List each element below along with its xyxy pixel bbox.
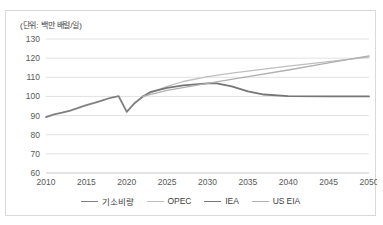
legend-item[interactable]: OPEC	[147, 196, 192, 206]
gridlines-group	[46, 39, 369, 173]
series-line-IEA	[143, 83, 369, 96]
series-line-기소비량	[46, 96, 143, 117]
legend-line-icon	[204, 201, 221, 202]
legend-item[interactable]: 기소비량	[81, 195, 134, 207]
y-axis-tick: 120	[26, 53, 40, 63]
plot-area: 60708090100110120130 2010201520202025203…	[6, 11, 377, 217]
legend-item-label: OPEC	[168, 196, 192, 206]
legend-item-label: IEA	[225, 196, 238, 206]
x-axis-tick: 2020	[117, 177, 136, 187]
y-axis-tick: 80	[31, 130, 41, 140]
x-axis-tick: 2050	[360, 177, 377, 187]
x-axis-tick: 2035	[238, 177, 257, 187]
data-series-group	[46, 56, 369, 117]
y-axis-tick: 130	[26, 34, 40, 44]
legend-line-icon	[81, 201, 98, 202]
legend-line-icon	[252, 201, 269, 202]
series-line-OPEC	[143, 57, 369, 96]
y-axis-tick: 110	[26, 72, 40, 82]
y-axis-tick: 100	[26, 91, 40, 101]
x-axis-tick: 2040	[279, 177, 298, 187]
legend-item-label: 기소비량	[102, 195, 134, 207]
line-chart-svg: 60708090100110120130 2010201520202025203…	[6, 11, 377, 217]
y-axis-tick: 90	[31, 111, 41, 121]
x-axis-tick: 2045	[319, 177, 338, 187]
x-axis-tick: 2030	[198, 177, 217, 187]
legend-item-label: US EIA	[273, 196, 300, 206]
x-axis-tick: 2010	[37, 177, 56, 187]
legend-item[interactable]: US EIA	[252, 196, 300, 206]
legend-line-icon	[147, 201, 164, 202]
chart-legend: 기소비량OPECIEAUS EIA	[6, 195, 375, 207]
chart-frame: (단위: 백만 배럴/일) 60708090100110120130 20102…	[5, 10, 376, 216]
y-axis-tick-labels: 60708090100110120130	[26, 34, 40, 178]
series-line-US EIA	[143, 56, 369, 97]
x-axis-tick: 2015	[77, 177, 96, 187]
x-axis-tick-labels: 201020152020202520302035204020452050	[37, 177, 377, 187]
x-axis-tick: 2025	[158, 177, 177, 187]
legend-item[interactable]: IEA	[204, 196, 238, 206]
y-axis-tick: 70	[31, 149, 41, 159]
